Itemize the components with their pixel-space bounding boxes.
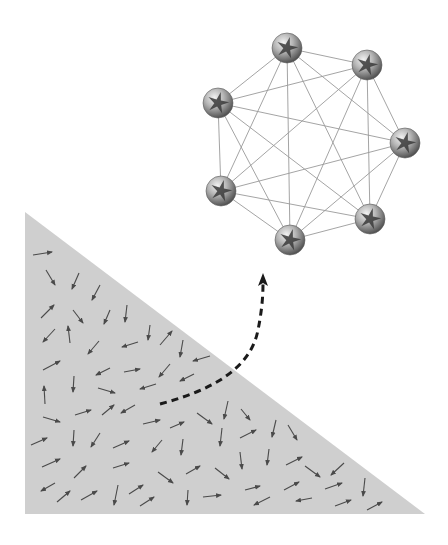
graph-edge <box>218 103 290 240</box>
graph-edge <box>221 48 287 191</box>
triangular-region <box>25 212 425 514</box>
diagram-svg <box>0 0 448 545</box>
graph-edge <box>221 191 370 219</box>
diagram-canvas <box>0 0 448 545</box>
graph-node-icon <box>272 33 302 63</box>
graph-edge <box>287 48 290 240</box>
graph-node-icon <box>352 50 382 80</box>
graph-edge <box>287 48 405 143</box>
graph-node-icon <box>275 225 305 255</box>
graph-edge <box>218 103 370 219</box>
graph-node-icon <box>206 176 236 206</box>
graph-edge <box>367 65 370 219</box>
arrowhead-up-icon <box>258 273 268 286</box>
graph-edge <box>290 65 367 240</box>
graph-node-icon <box>355 204 385 234</box>
graph-node-icon <box>390 128 420 158</box>
graph-node-icon <box>203 88 233 118</box>
